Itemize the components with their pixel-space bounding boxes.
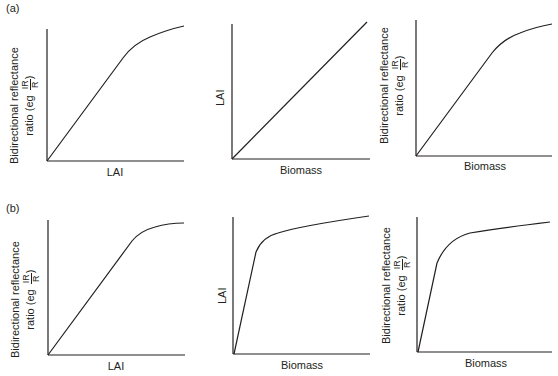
panel-a3-ylabel: Bidirectional reflectance ratio (eg IRR) bbox=[378, 27, 410, 144]
panel-b1-curve bbox=[48, 223, 184, 355]
panel-b3-ylabel: Bidirectional reflectance ratio (eg IRR) bbox=[380, 227, 412, 344]
ir-over-r-fraction: IRR bbox=[22, 273, 41, 284]
panel-b2-axes bbox=[233, 217, 370, 354]
panel-a1-xlabel: LAI bbox=[55, 166, 175, 178]
ir-over-r-fraction: IRR bbox=[391, 59, 410, 70]
panel-a3-xlabel: Biomass bbox=[425, 160, 545, 172]
panel-a2-ylabel: LAI bbox=[214, 89, 226, 106]
panel-b2-ylabel: LAI bbox=[216, 287, 228, 304]
row-b-label: (b) bbox=[6, 202, 19, 214]
row-a-label: (a) bbox=[6, 2, 19, 14]
panel-a3-axes bbox=[416, 20, 552, 156]
panel-a1-curve bbox=[47, 26, 184, 161]
panel-b2-xlabel: Biomass bbox=[242, 359, 362, 371]
panel-b1-xlabel: LAI bbox=[56, 360, 176, 372]
ir-over-r-fraction: IRR bbox=[21, 79, 40, 90]
panel-a3-curve bbox=[416, 24, 552, 156]
ir-over-r-fraction: IRR bbox=[393, 259, 412, 270]
panel-b3-curve bbox=[418, 222, 550, 352]
figure-canvas bbox=[0, 0, 558, 376]
panel-b1-ylabel: Bidirectional reflectance ratio (eg IRR) bbox=[9, 241, 41, 358]
panel-b3-axes bbox=[417, 217, 552, 352]
panel-b3-xlabel: Biomass bbox=[426, 357, 546, 369]
panel-a2-curve bbox=[232, 22, 367, 159]
panel-a2-xlabel: Biomass bbox=[241, 164, 361, 176]
panel-a1-ylabel: Bidirectional reflectance ratio (eg IRR) bbox=[8, 47, 40, 164]
panel-b2-curve bbox=[234, 216, 369, 354]
panel-a1-axes bbox=[47, 29, 184, 161]
panel-b1-axes bbox=[48, 220, 185, 355]
